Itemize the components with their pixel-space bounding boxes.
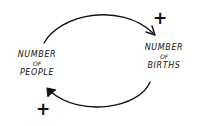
arrowhead-people-icon — [47, 88, 56, 97]
node-people-line-3: PEOPLE — [9, 68, 65, 77]
node-number-of-births: NUMBER OF BIRTHS — [136, 43, 192, 70]
node-number-of-people: NUMBER OF PEOPLE — [9, 50, 65, 77]
arrow-births-to-people — [50, 82, 150, 107]
causal-loop-diagram: NUMBER OF PEOPLE NUMBER OF BIRTHS + + — [0, 0, 197, 126]
node-people-line-2: OF — [9, 59, 65, 68]
node-births-line-2: OF — [136, 52, 192, 61]
polarity-plus-top: + — [153, 10, 167, 27]
node-births-line-1: NUMBER — [136, 43, 192, 52]
arrow-people-to-births — [44, 15, 153, 43]
node-people-line-1: NUMBER — [9, 50, 65, 59]
polarity-plus-bottom: + — [36, 101, 50, 118]
node-births-line-3: BIRTHS — [136, 61, 192, 70]
